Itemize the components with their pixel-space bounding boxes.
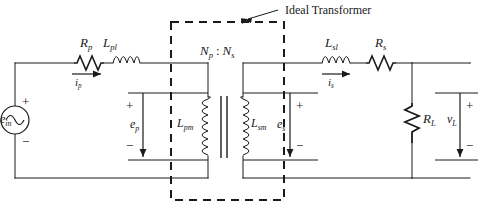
resistor-rl: [405, 103, 419, 143]
label-rp: Rp: [80, 36, 92, 49]
ep-measurement: [128, 93, 208, 160]
circuit-schematic-svg: [0, 0, 486, 224]
label-vl: vL: [447, 113, 457, 125]
winding-secondary-lsm: [241, 97, 250, 155]
es-plus-sign: +: [296, 99, 303, 112]
vl-minus-sign: −: [466, 139, 473, 152]
source-minus-sign: −: [22, 135, 29, 148]
resistor-rp: [74, 56, 104, 70]
ideal-transformer-label: Ideal Transformer: [285, 4, 371, 16]
ep-minus-sign: −: [126, 139, 133, 152]
inductor-lsl: [322, 57, 350, 64]
label-ep: ep: [130, 118, 139, 130]
label-is: is: [328, 77, 334, 88]
label-lpm: Lpm: [177, 117, 193, 129]
winding-primary-lpm: [202, 97, 211, 155]
label-lsl: Lsl: [325, 36, 338, 49]
label-lsm: Lsm: [251, 117, 266, 129]
transformer-core: [221, 96, 227, 158]
inductor-lpl: [113, 57, 140, 64]
ep-plus-sign: +: [126, 99, 133, 112]
label-rs: Rs: [375, 36, 386, 49]
circuit-diagram: Ideal Transformer Rp Lpl Lsl Rs Np:Ns Lp…: [0, 0, 486, 224]
vl-plus-sign: +: [466, 99, 473, 112]
resistor-rs: [366, 56, 396, 70]
es-minus-sign: −: [296, 139, 303, 152]
source-plus-sign: +: [22, 95, 29, 108]
label-ein: ein: [0, 113, 11, 125]
ideal-transformer-leader: [248, 10, 278, 19]
label-rl: RL: [423, 112, 436, 125]
label-lpl: Lpl: [103, 36, 117, 49]
label-turns-ratio: Np:Ns: [200, 44, 235, 57]
label-es: es: [277, 118, 285, 130]
label-ip: ip: [75, 77, 82, 88]
